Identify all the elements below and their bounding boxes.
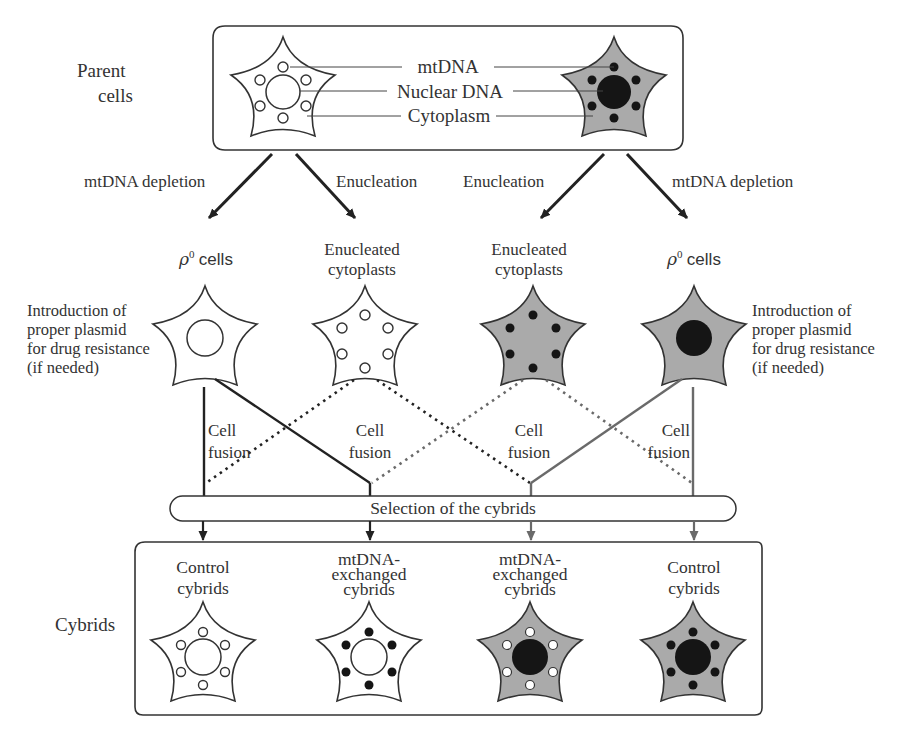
cybrid-label-4: Control cybrids <box>667 557 720 599</box>
cybrid-label-3: mtDNA- exchanged cybrids <box>493 552 568 597</box>
fusion-3-line2: fusion <box>508 442 551 464</box>
cybrid-exchanged-left <box>317 602 421 701</box>
branch-label-right-enucleation: Enucleation <box>463 172 544 192</box>
parent-cell-gray <box>562 37 666 136</box>
parent-label-line1: Parent <box>77 58 133 83</box>
branch-label-right-depletion: mtDNA depletion <box>672 172 793 192</box>
plasmid-left-line4: (if needed) <box>27 358 150 377</box>
nucleus-icon <box>266 75 300 109</box>
nucleus-icon <box>597 75 631 109</box>
fusion-label-4: Cell fusion <box>645 420 690 464</box>
branch-arrows <box>209 154 687 218</box>
plasmid-right-line4: (if needed) <box>752 358 875 377</box>
rho0-cell-right <box>642 286 746 385</box>
rho0-cell-left <box>153 286 257 385</box>
fusion-label-1: Cell fusion <box>208 420 251 464</box>
cytoplast-cell-right <box>481 286 585 385</box>
selection-arrows <box>203 521 694 540</box>
rho-cells-text: cells <box>199 250 233 269</box>
fusion-4-line2: fusion <box>645 442 690 464</box>
plasmid-right-line2: proper plasmid <box>752 320 875 339</box>
arrow-right-enucleation <box>541 154 604 218</box>
cybrid-control-right <box>641 602 745 701</box>
legend-mtdna: mtDNA <box>417 54 478 79</box>
cybrid-2-line3: cybrids <box>332 582 407 597</box>
fusion-label-2: Cell fusion <box>349 420 392 464</box>
plasmid-right-line3: for drug resistance <box>752 339 875 358</box>
cytoplast-right-line2: cytoplasts <box>491 260 567 280</box>
rho0-cells-right-label: ρ0 cells <box>667 244 721 270</box>
legend-cytoplasm: Cytoplasm <box>408 103 490 128</box>
cybrid-1-line2: cybrids <box>176 578 229 599</box>
fusion-lines <box>204 379 693 496</box>
plasmid-note-left: Introduction of proper plasmid for drug … <box>27 301 150 377</box>
parent-cells-label: Parent cells <box>77 58 133 108</box>
rho-superscript: 0 <box>189 248 195 260</box>
cybrid-control-left <box>151 602 255 701</box>
arrow-left-depletion <box>209 154 272 218</box>
cytoplast-right-line1: Enucleated <box>491 240 567 260</box>
legend-nuclear-dna: Nuclear DNA <box>397 79 503 104</box>
fusion-2-line1: Cell <box>349 420 392 442</box>
fusion-2-line2: fusion <box>349 442 392 464</box>
rho-superscript: 0 <box>677 248 683 260</box>
cybrid-3-line3: cybrids <box>493 582 568 597</box>
plasmid-right-line1: Introduction of <box>752 301 875 320</box>
plasmid-left-line3: for drug resistance <box>27 339 150 358</box>
rho-symbol: ρ <box>667 249 677 269</box>
plasmid-note-right: Introduction of proper plasmid for drug … <box>752 301 875 377</box>
cybrid-label-2: mtDNA- exchanged cybrids <box>332 552 407 597</box>
cybrid-exchanged-right <box>478 602 582 701</box>
rho0-cells-left-label: ρ0 cells <box>179 244 233 270</box>
fusion-label-3: Cell fusion <box>508 420 551 464</box>
rho-symbol: ρ <box>179 249 189 269</box>
cytoplast-cell-left <box>313 286 417 385</box>
cybrids-label: Cybrids <box>55 612 115 637</box>
fusion-3-line1: Cell <box>508 420 551 442</box>
parent-label-line2: cells <box>77 83 133 108</box>
cytoplast-left-label: Enucleated cytoplasts <box>324 240 400 280</box>
branch-label-left-enucleation: Enucleation <box>336 172 417 192</box>
fusion-4-line1: Cell <box>645 420 690 442</box>
parent-cells-box <box>213 26 234 150</box>
cybrid-label-1: Control cybrids <box>176 557 229 599</box>
cytoplast-left-line1: Enucleated <box>324 240 400 260</box>
plasmid-left-line2: proper plasmid <box>27 320 150 339</box>
plasmid-left-line1: Introduction of <box>27 301 150 320</box>
selection-label: Selection of the cybrids <box>370 498 536 518</box>
cybrid-4-line2: cybrids <box>667 578 720 599</box>
cybrid-1-line1: Control <box>176 557 229 578</box>
cytoplast-right-label: Enucleated cytoplasts <box>491 240 567 280</box>
fusion-1-line1: Cell <box>208 420 251 442</box>
cybrid-4-line1: Control <box>667 557 720 578</box>
branch-label-left-depletion: mtDNA depletion <box>84 172 205 192</box>
parent-cell-white <box>231 37 335 136</box>
fusion-1-line2: fusion <box>208 442 251 464</box>
rho-cells-text: cells <box>687 250 721 269</box>
cytoplast-left-line2: cytoplasts <box>324 260 400 280</box>
